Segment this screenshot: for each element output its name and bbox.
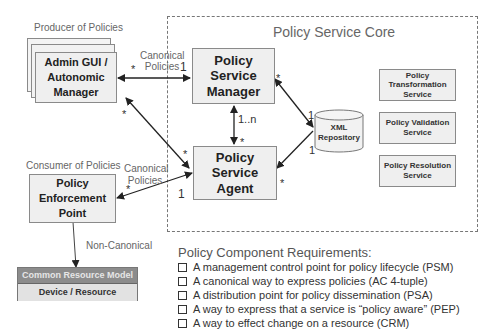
admin-gui-autonomic-manager-box: Admin GUI / Autonomic Manager bbox=[35, 52, 117, 103]
common-resource-model-header: Common Resource Model bbox=[18, 268, 137, 284]
producer-caption: Producer of Policies bbox=[34, 22, 123, 33]
repo-psa-connector bbox=[277, 131, 313, 168]
requirements-title: Policy Component Requirements: bbox=[178, 245, 372, 260]
checkbox-icon bbox=[178, 277, 187, 286]
xml-repository: XML Repository bbox=[314, 109, 364, 153]
checkbox-icon bbox=[178, 291, 187, 300]
admin-psm-multiplicity-star: * bbox=[131, 63, 135, 75]
requirement-item: A way to effect change on a resource (CR… bbox=[178, 317, 409, 329]
checkbox-icon bbox=[178, 319, 187, 328]
pep-crm-connector bbox=[73, 222, 76, 267]
common-resource-model-box: Common Resource Model Device / Resource bbox=[17, 267, 138, 301]
policy-transformation-service-box: Policy Transformation Service bbox=[379, 69, 456, 101]
requirement-item: A way to express that a service is “poli… bbox=[178, 303, 460, 315]
repo-psa-multiplicity-star: * bbox=[280, 177, 284, 189]
pep-psa-multiplicity-one: 1 bbox=[178, 187, 185, 201]
checkbox-icon bbox=[178, 305, 187, 314]
policy-enforcement-point-box: Policy Enforcement Point bbox=[29, 174, 116, 223]
xml-repository-label: XML Repository bbox=[314, 123, 364, 143]
policy-service-agent-box: Policy Service Agent bbox=[193, 146, 277, 200]
policy-validation-service-box: Policy Validation Service bbox=[379, 112, 456, 144]
device-resource-label: Device / Resource bbox=[18, 284, 137, 301]
requirement-item: A canonical way to express policies (AC … bbox=[178, 275, 428, 287]
pep-psa-multiplicity-star: * bbox=[126, 183, 130, 195]
psm-repo-multiplicity-star: * bbox=[276, 72, 280, 84]
admin-psa-connector bbox=[126, 98, 189, 168]
admin-psm-multiplicity-one: 1 bbox=[180, 60, 187, 74]
admin-psa-multiplicity-star-psa: * bbox=[183, 148, 187, 160]
policy-resolution-service-box: Policy Resolution Service bbox=[379, 155, 456, 187]
consumer-caption: Consumer of Policies bbox=[26, 160, 120, 171]
checkbox-icon bbox=[178, 263, 187, 272]
psm-psa-multiplicity-n: 1..n bbox=[238, 113, 256, 125]
requirement-item: A distribution point for policy dissemin… bbox=[178, 289, 433, 301]
policy-service-manager-box: Policy Service Manager bbox=[192, 48, 275, 104]
canonical-policies-label-top: Canonical Policies bbox=[140, 50, 184, 72]
non-canonical-label: Non-Canonical bbox=[86, 240, 152, 251]
canonical-policies-label-bottom: Canonical Policies bbox=[124, 163, 166, 187]
admin-psa-multiplicity-star-admin: * bbox=[122, 108, 126, 120]
requirement-item: A management control point for policy li… bbox=[178, 261, 453, 273]
